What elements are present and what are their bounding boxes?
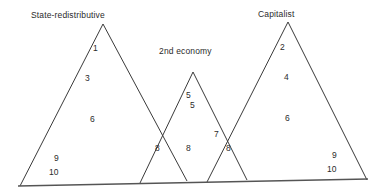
region-number-4: 4 (284, 72, 289, 82)
region-number-3: 3 (85, 73, 90, 83)
triangle-2nd-economy (140, 72, 247, 183)
diagram-baseline (18, 179, 368, 186)
triangle-capitalist (207, 22, 367, 182)
region-number-9-left: 9 (54, 153, 59, 163)
region-number-7: 7 (214, 129, 219, 139)
region-number-1: 1 (93, 43, 98, 53)
region-number-6-left: 6 (90, 114, 95, 124)
diagram-canvas: State-redistributive 2nd economy Capital… (0, 0, 379, 193)
label-state-redistributive: State-redistributive (31, 10, 105, 20)
label-capitalist: Capitalist (258, 9, 294, 19)
region-number-5-upper: 5 (186, 90, 191, 100)
region-number-8-right-overlap: 8 (226, 143, 231, 153)
region-number-5-lower: 5 (190, 100, 195, 110)
region-number-2: 2 (280, 42, 285, 52)
label-2nd-economy: 2nd economy (159, 46, 212, 56)
region-number-8-middle: 8 (186, 143, 191, 153)
region-number-10-right: 10 (327, 164, 336, 174)
region-number-10-left: 10 (49, 167, 58, 177)
region-number-9-right: 9 (332, 150, 337, 160)
region-number-6-right: 6 (285, 113, 290, 123)
region-number-8-left-overlap: 8 (155, 143, 160, 153)
